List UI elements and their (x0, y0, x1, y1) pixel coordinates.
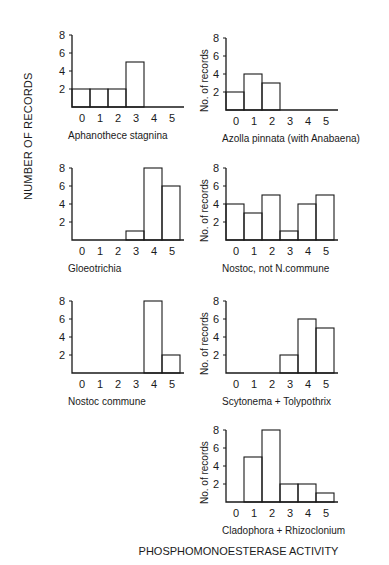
x-tick-label: 1 (97, 378, 103, 390)
y-tick-label: 6 (213, 50, 219, 62)
y-tick-label: 8 (213, 162, 219, 174)
x-tick-label: 3 (287, 115, 293, 127)
histogram-title: Aphanothece stagnina (68, 130, 168, 141)
y-tick-label: 6 (59, 180, 65, 192)
y-tick-label: 6 (213, 313, 219, 325)
x-tick-label: 3 (287, 507, 293, 519)
histogram-plot: 2468012345 (196, 422, 356, 542)
y-tick-label: 4 (59, 198, 65, 210)
histogram-bar (144, 168, 162, 240)
y-tick-label: 4 (213, 331, 219, 343)
axes (72, 301, 184, 373)
x-tick-label: 1 (251, 115, 257, 127)
axes (72, 168, 184, 240)
histogram-title: Cladophora + Rhizoclonium (222, 525, 345, 536)
y-tick-label: 8 (213, 424, 219, 436)
histogram-plot: 2468012345 (196, 160, 356, 280)
histogram-plot: 2468012345 (196, 30, 356, 150)
histogram-bar (298, 319, 316, 373)
x-tick-label: 0 (233, 245, 239, 257)
x-tick-label: 0 (79, 245, 85, 257)
x-tick-label: 2 (269, 507, 275, 519)
histogram-panel: 2468012345Nostoc commune (42, 293, 202, 413)
histogram-bar (244, 74, 262, 110)
histogram-bar (126, 62, 144, 107)
histogram-bar (298, 204, 316, 240)
x-tick-label: 0 (233, 507, 239, 519)
histogram-bar (298, 484, 316, 502)
x-tick-label: 4 (151, 378, 157, 390)
x-tick-label: 0 (79, 112, 85, 124)
histogram-bar (280, 355, 298, 373)
x-tick-label: 2 (269, 245, 275, 257)
figure-y-axis-label: NUMBER OF RECORDS (22, 73, 34, 200)
y-tick-label: 8 (213, 295, 219, 307)
y-tick-label: 8 (59, 29, 65, 41)
histogram-bar (144, 301, 162, 373)
histogram-panel: 2468012345Gloeotrichia (42, 160, 202, 280)
histogram-bar (226, 92, 244, 110)
x-tick-label: 5 (323, 507, 329, 519)
histogram-panel: 2468012345Aphanothece stagnina (42, 27, 202, 147)
y-tick-label: 2 (59, 349, 65, 361)
x-tick-label: 3 (133, 245, 139, 257)
x-tick-label: 5 (169, 245, 175, 257)
histogram-panel: 2468012345Scytonema + TolypothrixNo. of … (196, 293, 356, 413)
histogram-title: Nostoc, not N.commune (222, 263, 329, 274)
y-tick-label: 2 (213, 349, 219, 361)
histogram-bar (244, 213, 262, 240)
histogram-bar (226, 204, 244, 240)
y-tick-label: 4 (59, 65, 65, 77)
x-tick-label: 1 (97, 112, 103, 124)
histogram-panel: 2468012345Cladophora + RhizocloniumNo. o… (196, 422, 356, 542)
axes (226, 38, 338, 110)
x-tick-label: 1 (251, 507, 257, 519)
y-tick-label: 4 (213, 198, 219, 210)
x-tick-label: 4 (305, 245, 311, 257)
x-tick-label: 2 (115, 378, 121, 390)
y-tick-label: 6 (59, 313, 65, 325)
panel-y-axis-label: No. of records (199, 312, 210, 375)
histogram-title: Nostoc commune (68, 396, 146, 407)
histogram-bar (316, 195, 334, 240)
x-tick-label: 3 (287, 245, 293, 257)
x-tick-label: 5 (169, 378, 175, 390)
y-tick-label: 4 (59, 331, 65, 343)
y-tick-label: 2 (213, 216, 219, 228)
x-tick-label: 0 (233, 378, 239, 390)
y-tick-label: 8 (213, 32, 219, 44)
x-tick-label: 0 (79, 378, 85, 390)
x-tick-label: 4 (151, 112, 157, 124)
figure-x-axis-label: PHOSPHOMONOESTERASE ACTIVITY (0, 545, 389, 557)
histogram-panel: 2468012345Nostoc, not N.communeNo. of re… (196, 160, 356, 280)
x-tick-label: 3 (287, 378, 293, 390)
histogram-title: Gloeotrichia (68, 263, 121, 274)
x-tick-label: 2 (269, 378, 275, 390)
y-tick-label: 4 (213, 68, 219, 80)
panel-y-axis-label: No. of records (199, 179, 210, 242)
y-tick-label: 8 (59, 162, 65, 174)
x-tick-label: 5 (323, 378, 329, 390)
y-tick-label: 6 (59, 47, 65, 59)
histogram-bar (280, 484, 298, 502)
panel-y-axis-label: No. of records (199, 49, 210, 112)
y-tick-label: 6 (213, 442, 219, 454)
x-tick-label: 5 (323, 115, 329, 127)
axes (72, 35, 184, 107)
y-tick-label: 4 (213, 460, 219, 472)
histogram-plot: 2468012345 (42, 293, 202, 413)
histogram-plot: 2468012345 (42, 160, 202, 280)
histogram-bar (108, 89, 126, 107)
axes (226, 301, 338, 373)
histogram-bar (126, 231, 144, 240)
y-tick-label: 2 (213, 86, 219, 98)
y-tick-label: 6 (213, 180, 219, 192)
histogram-bar (280, 231, 298, 240)
histogram-bar (262, 195, 280, 240)
histogram-bar (162, 355, 180, 373)
x-tick-label: 2 (269, 115, 275, 127)
histogram-title: Azolla pinnata (with Anabaena) (222, 133, 360, 144)
x-tick-label: 1 (251, 378, 257, 390)
x-tick-label: 4 (151, 245, 157, 257)
panel-y-axis-label: No. of records (199, 441, 210, 504)
